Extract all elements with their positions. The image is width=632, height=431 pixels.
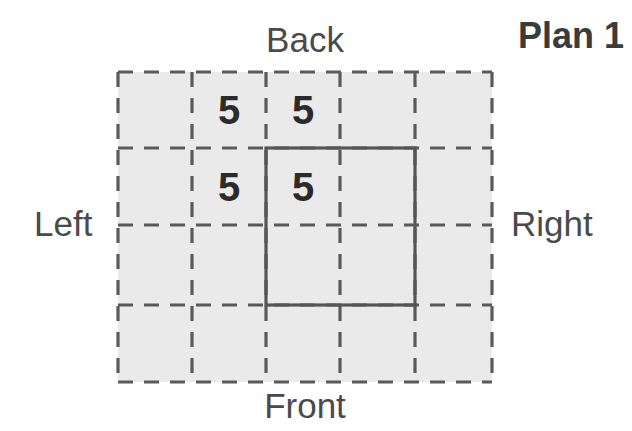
grid-cell xyxy=(340,225,415,305)
orientation-label-right: Right xyxy=(511,206,593,241)
grid-cell xyxy=(192,148,266,225)
base-plan-grid-svg xyxy=(118,72,492,382)
grid-cell xyxy=(415,225,492,305)
grid-cell xyxy=(118,72,192,148)
grid-cell xyxy=(192,225,266,305)
grid-cell xyxy=(266,305,340,382)
grid-cell xyxy=(340,148,415,225)
orientation-label-left: Left xyxy=(34,206,92,241)
grid-cell xyxy=(415,148,492,225)
grid-cell xyxy=(192,72,266,148)
orientation-label-front: Front xyxy=(0,388,610,423)
plan-title: Plan 1 xyxy=(518,18,624,54)
grid-cell xyxy=(266,72,340,148)
grid-cell xyxy=(266,225,340,305)
plan-diagram-figure: Back Left Right Front Plan 1 5555 xyxy=(0,0,632,431)
grid-cell xyxy=(340,72,415,148)
grid-cell xyxy=(340,305,415,382)
grid-cell xyxy=(266,148,340,225)
grid-cell-fills xyxy=(118,72,492,382)
grid-cell xyxy=(415,72,492,148)
grid-cell xyxy=(192,305,266,382)
base-plan-grid: 5555 xyxy=(118,72,492,382)
grid-cell xyxy=(118,148,192,225)
grid-cell xyxy=(415,305,492,382)
grid-cell xyxy=(118,225,192,305)
grid-cell xyxy=(118,305,192,382)
